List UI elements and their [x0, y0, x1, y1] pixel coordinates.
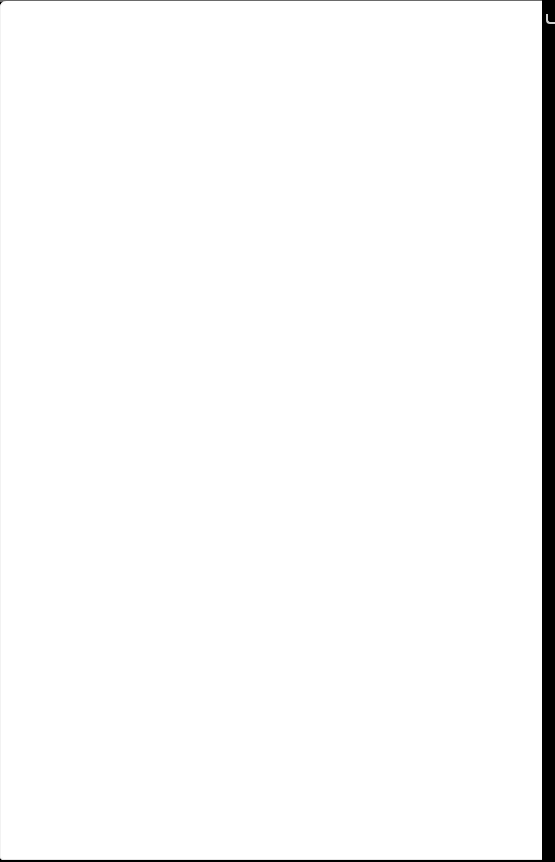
window-corner-icon: [546, 14, 555, 24]
screen: [0, 0, 555, 862]
blank-page: [0, 1, 542, 860]
right-edge-strip: [542, 0, 555, 862]
